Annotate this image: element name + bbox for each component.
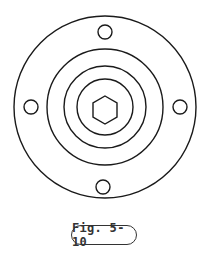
ring-3 bbox=[77, 79, 133, 135]
outer-circle bbox=[14, 16, 196, 198]
bolt-hole-bottom bbox=[96, 180, 110, 194]
flange-drawing bbox=[0, 0, 208, 256]
bolt-hole-left bbox=[24, 100, 38, 114]
bolt-hole-top bbox=[98, 25, 112, 39]
figure-caption: Fig. 5-10 bbox=[71, 225, 137, 245]
bolt-hole-right bbox=[173, 100, 187, 114]
hex-socket-icon bbox=[93, 96, 117, 124]
